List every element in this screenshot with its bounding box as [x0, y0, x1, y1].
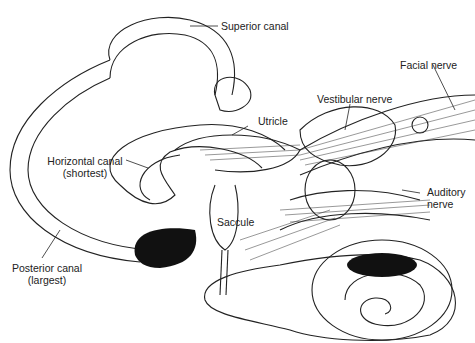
label-horizontal-canal-line2: (shortest) [44, 167, 126, 179]
label-saccule: Saccule [217, 216, 254, 228]
label-posterior-canal: Posterior canal (largest) [8, 262, 86, 286]
label-superior-canal: Superior canal [221, 20, 289, 32]
label-auditory-nerve: Auditory nerve [427, 186, 466, 210]
label-auditory-nerve-line1: Auditory [427, 186, 466, 198]
label-vestibular-nerve: Vestibular nerve [317, 93, 392, 105]
label-horizontal-canal-line1: Horizontal canal [44, 155, 126, 167]
label-horizontal-canal: Horizontal canal (shortest) [44, 155, 126, 179]
label-posterior-canal-line1: Posterior canal [8, 262, 86, 274]
label-auditory-nerve-line2: nerve [427, 198, 466, 210]
label-facial-nerve: Facial nerve [400, 59, 457, 71]
inner-ear-diagram: Superior canal Facial nerve Vestibular n… [0, 0, 475, 343]
label-posterior-canal-line2: (largest) [8, 274, 86, 286]
label-utricle: Utricle [258, 115, 288, 127]
